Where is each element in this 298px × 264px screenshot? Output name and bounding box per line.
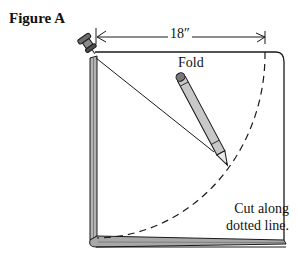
figure-a-illustration: Figure A 18″ Fold Cut along dotted line. — [0, 0, 298, 264]
fold-label: Fold — [178, 55, 204, 71]
cut-instruction: Cut along dotted line. — [205, 200, 289, 234]
pencil-icon — [175, 71, 232, 167]
figure-title: Figure A — [9, 10, 65, 27]
cut-instruction-line-1: Cut along — [205, 200, 289, 217]
dimension-label: 18″ — [168, 26, 192, 42]
cut-instruction-line-2: dotted line. — [205, 217, 289, 234]
